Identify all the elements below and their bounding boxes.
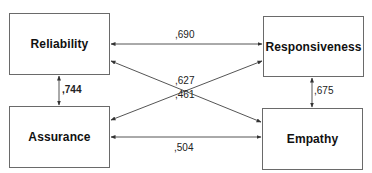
node-label: Reliability	[31, 37, 89, 51]
node-label: Responsiveness	[265, 40, 361, 54]
node-empathy: Empathy	[262, 108, 363, 170]
edge-label-responsiveness-empathy: ,675	[314, 86, 333, 96]
edge-label-assurance-responsiveness: ,627	[175, 76, 194, 86]
node-responsiveness: Responsiveness	[263, 16, 364, 77]
node-assurance: Assurance	[9, 106, 110, 168]
node-label: Assurance	[28, 130, 90, 144]
edge-label-assurance-empathy: ,504	[174, 143, 193, 153]
node-label: Empathy	[287, 132, 338, 146]
diagram-canvas: Reliability Responsiveness Assurance Emp…	[0, 0, 372, 173]
edge-label-reliability-assurance: ,744	[62, 85, 81, 95]
edge-label-reliability-empathy: ,461	[175, 90, 194, 100]
edge-label-reliability-responsiveness: ,690	[175, 30, 194, 40]
node-reliability: Reliability	[9, 13, 110, 75]
